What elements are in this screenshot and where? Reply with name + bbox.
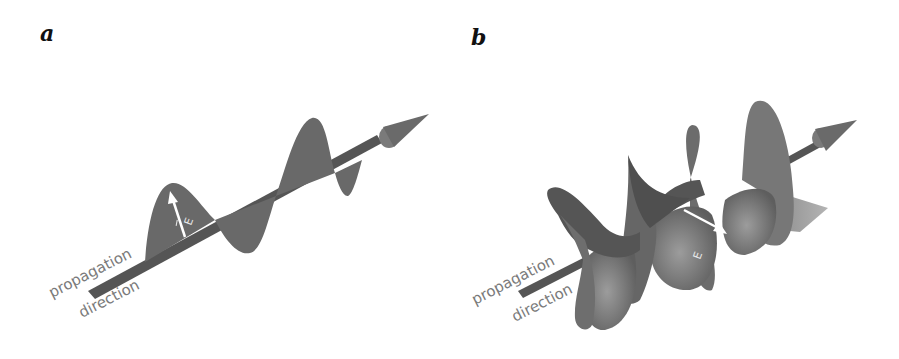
helix-wave-b xyxy=(547,101,794,330)
polarization-diagram: E propagation direction xyxy=(0,0,899,359)
arrowhead-a xyxy=(379,114,429,148)
arrowhead-b xyxy=(812,120,857,151)
panel-b-figure: E propagation direction xyxy=(469,101,857,330)
panel-a-figure: E propagation direction xyxy=(46,114,429,322)
sine-wave-a xyxy=(145,118,362,262)
